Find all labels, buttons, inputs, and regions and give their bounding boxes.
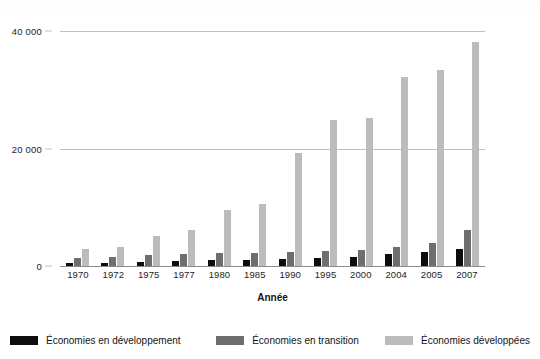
bar-1970-series2 [82, 249, 89, 266]
y-tick-dash-20000 [45, 148, 52, 149]
bar-1970-series1 [74, 258, 81, 266]
y-tick-label-0: 0 [37, 261, 42, 272]
legend-item-developing: Économies en développement [10, 335, 216, 346]
bar-2005-series2 [437, 70, 444, 266]
bar-2000-series2 [366, 118, 373, 266]
bar-2005-series1 [429, 243, 436, 267]
bar-2005-series0 [421, 252, 428, 266]
bar-group-1995 [314, 31, 337, 266]
x-tick-label-1970: 1970 [66, 269, 90, 283]
bar-2000-series0 [350, 257, 357, 266]
plot-area [60, 31, 485, 266]
scan-noise-band [0, 0, 540, 10]
bar-groups [60, 31, 485, 266]
x-axis-baseline [60, 266, 485, 267]
bar-1977-series0 [172, 261, 179, 266]
bar-1990-series0 [279, 259, 286, 266]
x-axis-labels: 1970197219751977198019851990199520002004… [60, 269, 485, 283]
bar-1980-series2 [224, 210, 231, 266]
legend-swatch-lightgray-icon [385, 336, 413, 345]
bar-group-1985 [243, 31, 266, 266]
x-tick-label-1980: 1980 [207, 269, 231, 283]
bar-group-2000 [350, 31, 373, 266]
bar-2007-series2 [472, 42, 479, 266]
x-tick-label-2000: 2000 [349, 269, 373, 283]
bar-1995-series0 [314, 258, 321, 266]
bar-1977-series1 [180, 254, 187, 266]
y-tick-dash-0 [45, 266, 52, 267]
bar-1995-series2 [330, 120, 337, 266]
legend-item-developed: Économies développées [385, 335, 530, 346]
bar-group-2005 [421, 31, 444, 266]
legend-label-transition: Économies en transition [252, 335, 359, 346]
bar-group-1975 [137, 31, 160, 266]
bar-2007-series1 [464, 230, 471, 266]
bar-group-1972 [101, 31, 124, 266]
bar-1980-series0 [208, 260, 215, 266]
bar-1977-series2 [188, 230, 195, 266]
bar-2004-series1 [393, 247, 400, 266]
chart-legend: Économies en développement Économies en … [10, 335, 530, 346]
bar-1985-series0 [243, 260, 250, 267]
bar-chart: 40 000 20 000 0 197019721975197719801985… [0, 0, 540, 359]
bar-1995-series1 [322, 251, 329, 266]
legend-swatch-black-icon [10, 336, 38, 345]
y-axis-labels: 40 000 20 000 0 [0, 31, 52, 266]
bar-2004-series0 [385, 254, 392, 266]
bar-2000-series1 [358, 250, 365, 266]
bar-1990-series1 [287, 252, 294, 266]
bar-1975-series1 [145, 255, 152, 266]
x-tick-label-1972: 1972 [101, 269, 125, 283]
x-tick-label-1977: 1977 [172, 269, 196, 283]
bar-group-1970 [66, 31, 89, 266]
x-tick-label-2005: 2005 [420, 269, 444, 283]
bar-group-2007 [456, 31, 479, 266]
bar-1975-series2 [153, 236, 160, 266]
legend-swatch-darkgray-icon [216, 336, 244, 345]
bar-1972-series1 [109, 257, 116, 266]
x-tick-label-1985: 1985 [243, 269, 267, 283]
bar-group-2004 [385, 31, 408, 266]
legend-item-transition: Économies en transition [216, 335, 385, 346]
x-tick-label-2007: 2007 [455, 269, 479, 283]
x-tick-label-1995: 1995 [314, 269, 338, 283]
bar-group-1977 [172, 31, 195, 266]
bar-1985-series2 [259, 204, 266, 266]
x-tick-label-2004: 2004 [384, 269, 408, 283]
x-tick-label-1975: 1975 [137, 269, 161, 283]
bar-2007-series0 [456, 249, 463, 266]
y-tick-label-20000: 20 000 [12, 143, 42, 154]
bar-group-1980 [208, 31, 231, 266]
bar-1980-series1 [216, 253, 223, 266]
bar-1972-series0 [101, 263, 108, 267]
bar-1975-series0 [137, 262, 144, 266]
bar-2004-series2 [401, 77, 408, 266]
x-axis-title: Année [60, 292, 485, 303]
y-tick-dash-40000 [45, 31, 52, 32]
legend-label-developed: Économies développées [421, 335, 530, 346]
bar-1990-series2 [295, 153, 302, 266]
bar-1985-series1 [251, 253, 258, 267]
y-tick-label-40000: 40 000 [12, 26, 42, 37]
x-tick-label-1990: 1990 [278, 269, 302, 283]
bar-1970-series0 [66, 263, 73, 266]
bar-1972-series2 [117, 247, 124, 266]
legend-label-developing: Économies en développement [46, 335, 181, 346]
bar-group-1990 [279, 31, 302, 266]
